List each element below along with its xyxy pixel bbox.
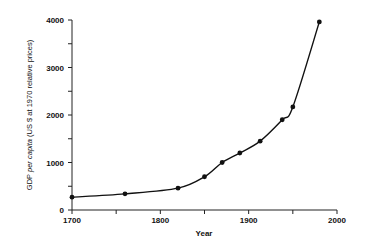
x-tick-label: 1800	[151, 216, 169, 225]
x-tick-label: 1900	[240, 216, 258, 225]
series-line	[72, 22, 319, 197]
data-point	[123, 191, 128, 196]
data-point	[202, 174, 207, 179]
x-axis-title: Year	[196, 229, 213, 238]
gdp-line-chart: 010002000300040001700180019002000 Year G…	[0, 0, 365, 249]
data-point	[258, 139, 263, 144]
y-tick-label: 0	[60, 206, 65, 215]
data-point	[237, 151, 242, 156]
x-tick-label: 1700	[63, 216, 81, 225]
y-tick-label: 3000	[46, 64, 64, 73]
y-tick-label: 4000	[46, 16, 64, 25]
data-point	[220, 160, 225, 165]
y-axis-title: GDP per capita (US $ at 1970 relative pr…	[25, 39, 34, 190]
data-series	[70, 20, 322, 200]
y-tick-label: 1000	[46, 159, 64, 168]
data-point	[290, 105, 295, 110]
y-tick-label: 2000	[46, 111, 64, 120]
data-point	[176, 186, 181, 191]
data-point	[280, 117, 285, 122]
axes: 010002000300040001700180019002000	[46, 16, 346, 225]
data-point	[70, 195, 75, 200]
x-tick-label: 2000	[328, 216, 346, 225]
data-point	[317, 20, 322, 25]
